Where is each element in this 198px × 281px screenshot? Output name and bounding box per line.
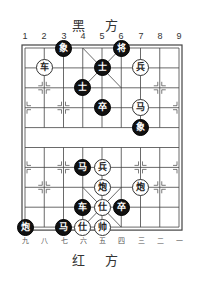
file-label: 四 <box>113 235 129 245</box>
red-piece[interactable]: 仕 <box>74 219 91 236</box>
file-numbers-bottom: 九 八 七 六 五 四 三 二 一 <box>0 235 198 247</box>
file-label: 一 <box>171 235 187 245</box>
file-label: 二 <box>152 235 168 245</box>
file-label: 三 <box>133 235 149 245</box>
black-piece[interactable]: 炮 <box>17 219 34 236</box>
black-piece[interactable]: 象 <box>132 119 149 136</box>
file-label: 九 <box>17 235 33 245</box>
file-label: 六 <box>75 235 91 245</box>
black-piece[interactable]: 象 <box>55 40 72 57</box>
black-piece[interactable]: 将 <box>113 40 130 57</box>
red-piece[interactable]: 帅 <box>94 219 111 236</box>
file-label: 八 <box>36 235 52 245</box>
black-piece[interactable]: 车 <box>74 199 91 216</box>
black-piece[interactable]: 士 <box>94 59 111 76</box>
file-label: 七 <box>56 235 72 245</box>
red-piece[interactable]: 兵 <box>94 159 111 176</box>
red-piece[interactable]: 炮 <box>132 179 149 196</box>
red-side-title: 红 方 <box>0 250 198 269</box>
red-piece[interactable]: 炮 <box>94 179 111 196</box>
black-piece[interactable]: 马 <box>55 219 72 236</box>
file-label: 五 <box>94 235 110 245</box>
black-piece[interactable]: 卒 <box>113 199 130 216</box>
red-piece[interactable]: 仕 <box>94 199 111 216</box>
black-piece[interactable]: 卒 <box>94 99 111 116</box>
